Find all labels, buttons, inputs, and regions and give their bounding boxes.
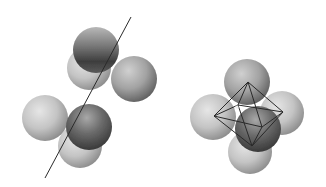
molecular-figure xyxy=(0,0,326,187)
sphere xyxy=(73,27,119,73)
sphere xyxy=(224,59,270,105)
linear-arrangement-panel xyxy=(22,27,157,168)
sphere xyxy=(22,95,68,141)
octahedral-arrangement-panel xyxy=(190,59,304,174)
sphere xyxy=(66,104,112,150)
sphere xyxy=(111,56,157,102)
highlight-dot xyxy=(235,105,238,108)
